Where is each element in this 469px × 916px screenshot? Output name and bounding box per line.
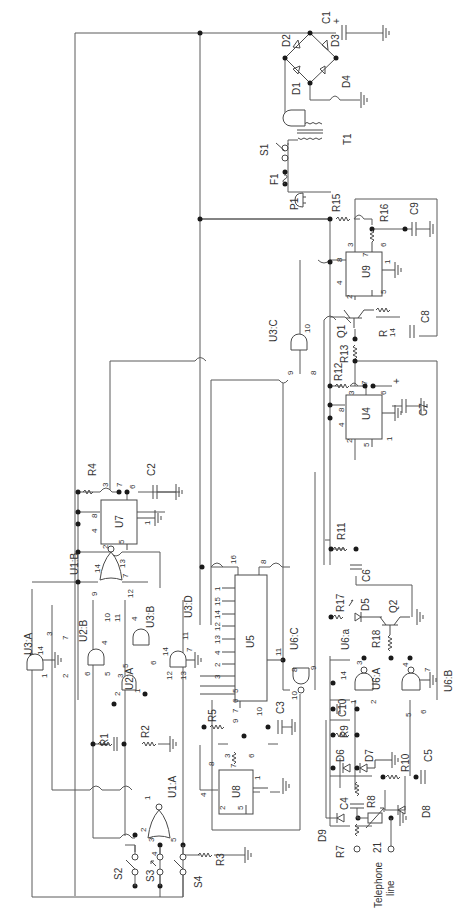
- label-r12: R12: [333, 362, 344, 381]
- label-t1: T1: [342, 133, 353, 145]
- resistor-r3: [198, 853, 212, 857]
- pin: 9: [90, 591, 99, 596]
- label-u3c: U3:C: [268, 319, 279, 342]
- label-p1: P1: [289, 197, 300, 210]
- label-d6: D6: [335, 749, 346, 762]
- pin: 1: [253, 775, 262, 780]
- pin: 10: [303, 324, 312, 333]
- label-u9: U9: [361, 265, 372, 278]
- diode-d9: [337, 813, 344, 823]
- pin: 7: [361, 252, 370, 257]
- pin: 4: [100, 640, 109, 645]
- capacitor-c6: [350, 565, 362, 569]
- label-c2: C2: [146, 463, 157, 476]
- pin: 5: [236, 805, 245, 810]
- pin: 2: [218, 805, 227, 810]
- ic-u8: [219, 752, 289, 814]
- label-u5: U5: [245, 635, 256, 648]
- pin: 1: [383, 259, 392, 264]
- label-telephone: Telephone: [373, 861, 384, 908]
- label-r1: R1: [99, 733, 110, 746]
- pin: 4: [213, 650, 222, 655]
- pin: 8: [309, 370, 318, 375]
- pin: 13: [213, 635, 222, 644]
- label-c7: C7: [418, 403, 429, 416]
- pin: 1: [143, 795, 152, 800]
- label-r11: R11: [336, 522, 347, 540]
- pin: 1: [143, 520, 152, 525]
- pin: 5: [231, 688, 240, 693]
- pin: 2: [213, 662, 222, 667]
- pin: 4: [401, 662, 410, 667]
- pin: 10: [255, 707, 264, 716]
- label-c1-plus: +: [331, 18, 342, 24]
- pin-numbers: 3 7 6 8 4 1 2 5 10 9 8 3 7 6 8 4 2 5 1 3…: [36, 242, 432, 856]
- label-c7-plus: +: [391, 378, 402, 384]
- transistor-q1: [344, 308, 390, 328]
- label-u2a: U2:A: [124, 667, 135, 690]
- label-d1: D1: [291, 82, 302, 95]
- pin: 14: [339, 671, 348, 680]
- pin: 3: [355, 660, 364, 665]
- pin: 5: [379, 289, 388, 294]
- pin: 5: [404, 712, 413, 717]
- pin: 9: [309, 665, 318, 670]
- label-d2: D2: [281, 34, 292, 47]
- pin: 2: [345, 438, 354, 443]
- pin: 7: [360, 380, 369, 385]
- label-c6: C6: [361, 569, 372, 582]
- pin: 7: [423, 667, 432, 672]
- pin: 1: [213, 586, 222, 591]
- pin: 7: [121, 573, 130, 578]
- label-f1: F1: [269, 173, 280, 185]
- label-q1: Q1: [336, 324, 347, 338]
- pin: 8: [290, 667, 299, 672]
- label-c5: C5: [423, 749, 434, 762]
- label-u3a: U3:A: [23, 632, 34, 655]
- gate-u3c-shape: [291, 334, 307, 350]
- label-c3: C3: [275, 701, 286, 714]
- pin: 5: [103, 671, 112, 676]
- label-c9: C9: [409, 202, 420, 215]
- telephone-terminal-a: [354, 846, 360, 852]
- pin: 2: [139, 827, 148, 832]
- pin: 12: [213, 622, 222, 631]
- label-r5: R5: [207, 709, 218, 722]
- resistor-r15: [336, 217, 350, 221]
- resistor-r10: [386, 775, 400, 779]
- diode-d7: [360, 763, 367, 773]
- ground-c1: [383, 25, 389, 41]
- pin: 8: [207, 761, 216, 766]
- pin: 3: [347, 390, 356, 395]
- pin: 2: [369, 699, 378, 704]
- pin: 4: [150, 851, 159, 856]
- label-s4: S4: [193, 875, 204, 888]
- telephone-terminal-b: [388, 846, 394, 852]
- ic-u7: [101, 500, 161, 550]
- label-r9: R9: [339, 725, 350, 738]
- capacitor-c5: [421, 770, 425, 784]
- pin: 8: [337, 407, 346, 412]
- resistor-r17: [333, 615, 343, 619]
- pin: 2: [101, 544, 110, 549]
- label-r7: R7: [335, 845, 346, 858]
- pin: 2: [345, 294, 354, 299]
- label-c4: C4: [339, 797, 350, 810]
- pin: 7: [61, 635, 70, 640]
- label-z1: 21: [372, 841, 383, 853]
- pin: 14: [36, 646, 45, 655]
- pin: 6: [231, 698, 240, 703]
- pin: 6: [128, 484, 137, 489]
- label-s1: S1: [259, 143, 270, 156]
- label-q2: Q2: [388, 599, 399, 613]
- pin: 8: [335, 257, 344, 262]
- pin: 7: [229, 763, 238, 768]
- pin: 6: [149, 660, 158, 665]
- pin: 6: [419, 709, 428, 714]
- ground-d4: [361, 92, 367, 108]
- pin: 4: [337, 422, 346, 427]
- pin: 7: [115, 482, 124, 487]
- pin: 15: [213, 597, 222, 606]
- capacitor-c9: [412, 221, 433, 237]
- pin: 4: [90, 528, 99, 533]
